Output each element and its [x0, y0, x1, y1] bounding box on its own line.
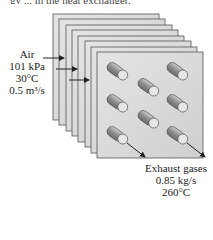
exhaust-title: Exhaust gases — [140, 162, 212, 174]
exhaust-outlet-label: Exhaust gases 0.85 kg/s 260°C — [140, 162, 212, 198]
exhaust-mass-flow: 0.85 kg/s — [140, 174, 212, 186]
air-temperature: 30°C — [2, 72, 52, 84]
air-flow-rate: 0.5 m³/s — [2, 84, 52, 96]
air-pressure: 101 kPa — [2, 60, 52, 72]
exhaust-temperature: 260°C — [140, 186, 212, 198]
air-inlet-label: Air 101 kPa 30°C 0.5 m³/s — [2, 48, 52, 96]
air-title: Air — [2, 48, 52, 60]
